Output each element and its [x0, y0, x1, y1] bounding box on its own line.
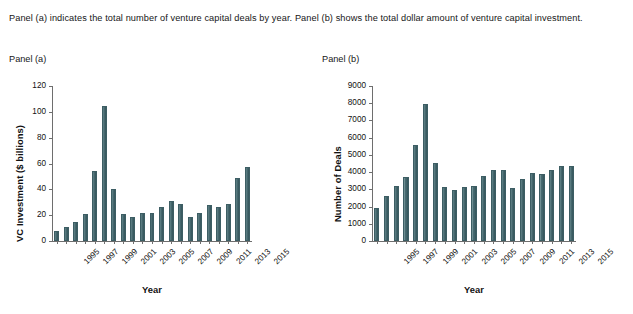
x-tick-mark [455, 241, 456, 244]
bar-2006 [481, 176, 486, 241]
x-tick-mark [513, 241, 514, 244]
x-tick-mark [532, 241, 533, 244]
x-tick-mark [435, 241, 436, 244]
bar-2015 [569, 166, 574, 241]
bar-2003 [130, 217, 135, 241]
y-tick-label: 7000 [326, 116, 366, 124]
x-tick-mark [114, 241, 115, 244]
x-tick-mark [95, 241, 96, 244]
bar-2000 [102, 106, 107, 241]
bar-1995 [374, 208, 379, 241]
x-tick-mark [238, 241, 239, 244]
bar-1998 [403, 177, 408, 241]
y-tick-mark [369, 189, 372, 190]
x-tick-mark [228, 241, 229, 244]
bar-2015 [245, 167, 250, 241]
y-tick-label: 4000 [326, 168, 366, 176]
x-tick-mark [133, 241, 134, 244]
x-tick-mark [57, 241, 58, 244]
x-tick-mark [561, 241, 562, 244]
x-tick-mark [552, 241, 553, 244]
bar-2010 [520, 179, 525, 241]
x-tick-mark [396, 241, 397, 244]
bar-2004 [462, 187, 467, 241]
bar-2007 [169, 201, 174, 241]
y-tick-label: 1000 [326, 220, 366, 228]
y-tick-mark [369, 224, 372, 225]
y-tick-mark [49, 189, 52, 190]
y-tick-label: 40 [6, 185, 46, 193]
chart-panel-b: Number of Deals 010002000300040005000600… [316, 72, 633, 308]
bar-2001 [111, 189, 116, 241]
bar-2007 [491, 170, 496, 241]
y-axis-line [52, 86, 53, 241]
bar-1999 [92, 171, 97, 241]
bar-2010 [197, 213, 202, 241]
bar-2011 [207, 205, 212, 241]
panel-a-plot-area: 0204060801001201995199719992001200320052… [52, 86, 252, 241]
bar-2002 [442, 187, 447, 241]
y-tick-mark [369, 207, 372, 208]
bar-2012 [539, 174, 544, 241]
bar-2014 [559, 166, 564, 241]
panel-b-x-axis-title: Year [372, 284, 576, 295]
x-tick-mark [425, 241, 426, 244]
y-tick-mark [369, 172, 372, 173]
y-tick-label: 0 [326, 237, 366, 245]
bar-1998 [83, 214, 88, 241]
x-tick-mark [85, 241, 86, 244]
x-tick-mark [200, 241, 201, 244]
figure-root: Panel (a) indicates the total number of … [0, 0, 633, 314]
y-tick-mark [369, 120, 372, 121]
panel-a-label: Panel (a) [9, 54, 46, 64]
x-tick-mark [484, 241, 485, 244]
bar-2009 [188, 217, 193, 241]
y-tick-label: 80 [6, 134, 46, 142]
bar-2001 [433, 163, 438, 241]
bar-2014 [235, 178, 240, 241]
y-tick-mark [49, 86, 52, 87]
panel-b-plot-area: 0100020003000400050006000700080009000199… [372, 86, 576, 241]
bar-2011 [530, 173, 535, 241]
y-tick-label: 2000 [326, 203, 366, 211]
figure-caption: Panel (a) indicates the total number of … [9, 12, 621, 26]
x-tick-mark [209, 241, 210, 244]
x-tick-mark [445, 241, 446, 244]
y-tick-mark [369, 138, 372, 139]
x-tick-mark [142, 241, 143, 244]
x-tick-mark [247, 241, 248, 244]
y-tick-mark [49, 164, 52, 165]
y-tick-label: 120 [6, 82, 46, 90]
y-tick-mark [369, 241, 372, 242]
x-tick-mark [377, 241, 378, 244]
y-tick-label: 8000 [326, 99, 366, 107]
y-tick-label: 5000 [326, 151, 366, 159]
bar-2006 [159, 207, 164, 241]
x-tick-mark [474, 241, 475, 244]
x-tick-mark [76, 241, 77, 244]
bar-1996 [64, 227, 69, 241]
bar-1996 [384, 196, 389, 241]
x-tick-mark [523, 241, 524, 244]
bar-1999 [413, 145, 418, 241]
y-tick-mark [49, 215, 52, 216]
y-tick-label: 6000 [326, 134, 366, 142]
bar-2002 [121, 214, 126, 241]
x-tick-mark [219, 241, 220, 244]
y-tick-label: 20 [6, 211, 46, 219]
x-tick-mark [571, 241, 572, 244]
bar-2008 [178, 204, 183, 241]
y-tick-mark [49, 241, 52, 242]
bar-1997 [73, 222, 78, 241]
y-tick-label: 0 [6, 237, 46, 245]
bar-1997 [394, 186, 399, 241]
x-tick-mark [190, 241, 191, 244]
x-tick-mark [171, 241, 172, 244]
bar-2009 [510, 188, 515, 241]
bar-2004 [140, 213, 145, 241]
x-tick-mark [123, 241, 124, 244]
y-axis-line [372, 86, 373, 241]
y-tick-mark [49, 138, 52, 139]
y-tick-mark [369, 103, 372, 104]
bar-2008 [501, 170, 506, 241]
